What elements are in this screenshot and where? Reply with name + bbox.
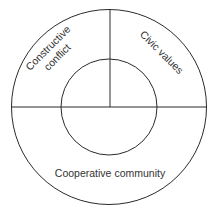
segment-constructive-conflict: Constructive conflict <box>23 23 82 82</box>
segment-cooperative-community: Cooperative community <box>55 167 166 179</box>
diagram-canvas: Constructive conflict Civic values Coope… <box>0 0 219 216</box>
segment-label: Civic values <box>138 28 186 76</box>
segment-civic-values: Civic values <box>138 28 186 76</box>
